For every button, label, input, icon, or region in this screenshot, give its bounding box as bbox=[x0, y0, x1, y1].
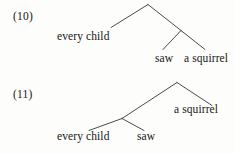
example-11-block: (11) a squirrel every child saw bbox=[0, 77, 235, 154]
branch-ip-to-every-child bbox=[89, 119, 122, 131]
figure-canvas: (10) every child saw a squirrel (11) bbox=[0, 0, 235, 154]
leaf-every-child: every child bbox=[57, 30, 110, 42]
branch-root-to-ip-node bbox=[122, 83, 177, 119]
leaf-a-squirrel: a squirrel bbox=[174, 103, 218, 115]
leaf-saw: saw bbox=[155, 52, 173, 64]
leaf-saw: saw bbox=[137, 130, 155, 142]
tree-11-branch-lines bbox=[0, 77, 235, 154]
leaf-every-child: every child bbox=[57, 130, 110, 142]
tree-10-branch-lines bbox=[0, 0, 235, 77]
leaf-a-squirrel: a squirrel bbox=[184, 52, 228, 64]
branch-vp-to-a-squirrel bbox=[181, 31, 205, 50]
branch-ip-to-saw bbox=[122, 119, 144, 131]
branch-vp-to-saw bbox=[163, 31, 181, 50]
branch-root-to-vp-node bbox=[148, 5, 181, 31]
branch-root-to-every-child bbox=[111, 5, 148, 28]
example-10-block: (10) every child saw a squirrel bbox=[0, 0, 235, 77]
